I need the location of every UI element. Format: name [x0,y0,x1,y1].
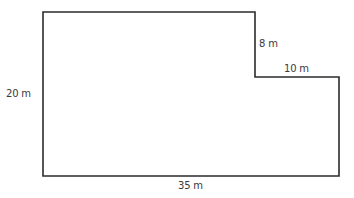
bottom-width-label: 35 m [178,181,203,191]
l-shaped-polygon [43,12,339,176]
l-shape-outline [0,0,354,198]
notch-width-label: 10 m [284,64,309,74]
left-height-label: 20 m [6,89,31,99]
notch-height-label: 8 m [259,39,278,49]
